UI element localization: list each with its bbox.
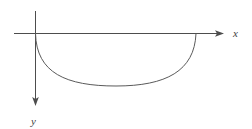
x-axis-label: x: [232, 27, 238, 39]
coordinate-diagram: x y: [0, 0, 252, 129]
y-axis-label: y: [30, 115, 36, 127]
arc-curve: [36, 34, 197, 87]
figure-canvas: x y: [0, 0, 252, 129]
